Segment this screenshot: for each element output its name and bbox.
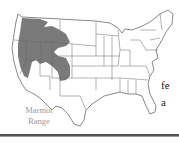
body-text-fragment: fe [161, 79, 170, 91]
caption-line-1: Marmot [16, 105, 62, 116]
caption-line-2: Range [16, 116, 62, 127]
map-caption: Marmot Range [16, 105, 62, 127]
page-rule-secondary [0, 136, 179, 137]
body-text-fragment: a [161, 96, 166, 108]
